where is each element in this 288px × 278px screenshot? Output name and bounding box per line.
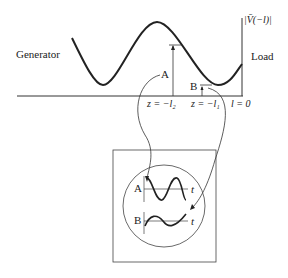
inset-label-a: A [134,182,142,194]
inset-t-a: t [191,183,194,195]
label-load: Load [251,50,274,62]
inset-label-b: B [134,214,141,226]
label-l-zero: l = 0 [231,98,251,109]
label-z-l2: z = −l₂ [147,98,176,109]
label-point-b: B [190,80,197,92]
label-generator: Generator [16,48,60,60]
label-z-l1: z = −l₁ [191,98,220,109]
standing-wave-diagram [0,0,288,278]
connector-a [138,75,160,178]
label-magnitude: |V̄(−l)| [244,14,272,25]
trace-b [145,214,186,226]
oscilloscope-frame [113,150,216,262]
label-point-a: A [161,68,169,80]
inset-t-b: t [191,215,194,227]
